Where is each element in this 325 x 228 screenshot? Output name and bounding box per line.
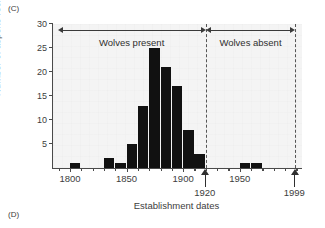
x-axis-minor-tick — [149, 168, 150, 171]
figure-panel-c: (C) Number of aspens recruited 510152025… — [0, 0, 325, 228]
x-axis-minor-tick — [138, 168, 139, 171]
y-axis-tick — [49, 71, 53, 72]
x-axis-minor-tick — [161, 168, 162, 171]
wolves-present-label: Wolves present — [58, 37, 206, 48]
y-axis-tick-label: 10 — [21, 116, 47, 125]
histogram-bar — [149, 48, 160, 168]
y-axis-tick-label: 25 — [21, 44, 47, 53]
x-axis-tick — [183, 168, 184, 172]
wolves-absent-label: Wolves absent — [206, 37, 295, 48]
x-axis-title: Establishment dates — [52, 200, 301, 211]
x-axis-minor-tick — [93, 168, 94, 171]
x-axis-tick-label: 1950 — [220, 174, 260, 184]
callout-shaft-1999 — [294, 174, 295, 187]
x-axis-tick-label: 1900 — [163, 174, 203, 184]
x-axis-minor-tick — [59, 168, 60, 171]
x-axis-minor-tick — [262, 168, 263, 171]
histogram-bar — [127, 144, 138, 168]
y-axis-tick — [49, 119, 53, 120]
wolves-absent-arrowhead-left — [206, 27, 211, 33]
wolves-present-arrowhead-left — [58, 27, 63, 33]
x-axis-minor-tick — [104, 168, 105, 171]
callout-shaft-1920 — [205, 174, 206, 187]
histogram-bar — [115, 163, 126, 168]
y-axis-tick — [49, 23, 53, 24]
x-axis-tick — [70, 168, 71, 172]
wolves-absent-span-arrow — [211, 30, 290, 31]
histogram-bar — [240, 163, 251, 168]
histogram-bar — [161, 67, 172, 168]
callout-label-1999: 1999 — [272, 188, 316, 198]
x-axis-tick — [240, 168, 241, 172]
histogram-bar — [70, 163, 81, 168]
x-axis-tick-label: 1800 — [50, 174, 90, 184]
callout-label-1920: 1920 — [183, 188, 227, 198]
panel-label-c: (C) — [8, 4, 19, 13]
y-axis-tick — [49, 95, 53, 96]
y-axis-tick-label: 15 — [21, 92, 47, 101]
y-axis-tick-label: 30 — [21, 20, 47, 29]
x-axis-minor-tick — [172, 168, 173, 171]
plot-area: 510152025301800185019001950Wolves presen… — [52, 24, 302, 169]
wolves-absent-arrowhead-right — [290, 27, 295, 33]
y-axis-tick — [49, 143, 53, 144]
x-axis-tick-label: 1850 — [107, 174, 147, 184]
y-axis-title: Number of aspens recruited — [0, 0, 2, 96]
line-1999 — [295, 24, 296, 168]
histogram-bar — [172, 86, 183, 168]
x-axis-minor-tick — [81, 168, 82, 171]
histogram-bar — [194, 154, 205, 168]
x-axis-tick — [127, 168, 128, 172]
x-axis-minor-tick — [274, 168, 275, 171]
x-axis-minor-tick — [228, 168, 229, 171]
panel-label-d: (D) — [8, 210, 19, 219]
x-axis-minor-tick — [285, 168, 286, 171]
x-axis-minor-tick — [251, 168, 252, 171]
x-axis-minor-tick — [194, 168, 195, 171]
histogram-bar — [251, 163, 262, 168]
y-axis-tick — [49, 47, 53, 48]
x-axis-minor-tick — [217, 168, 218, 171]
y-axis-tick-label: 5 — [21, 140, 47, 149]
histogram-bar — [183, 130, 194, 168]
wolves-present-span-arrow — [63, 30, 201, 31]
x-axis-minor-tick — [115, 168, 116, 171]
y-axis-tick-label: 20 — [21, 68, 47, 77]
histogram-bar — [138, 106, 149, 168]
histogram-bar — [104, 158, 115, 168]
